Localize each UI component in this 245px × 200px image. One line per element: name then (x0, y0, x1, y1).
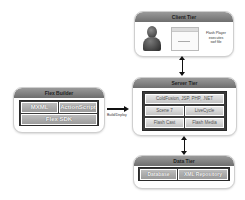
browser-window-icon (171, 27, 199, 51)
flex-cell-flex-sdk: Flex SDK (21, 114, 97, 125)
data-tier: Data Tier Database XML Repository (133, 155, 235, 189)
data-cell-xml-repository: XML Repository (178, 169, 228, 180)
server-tier: Server Tier ColdFusion, JSP, PHP, .NET S… (132, 77, 237, 136)
flex-cell-actionscript: ActionScript (59, 102, 97, 113)
data-components: Database XML Repository (138, 167, 230, 181)
server-tier-title: Server Tier (133, 78, 236, 88)
client-note: Flash Player executes swf file (201, 31, 231, 45)
build-deploy-label: Build/Deploy (107, 113, 127, 117)
data-cell-database: Database (140, 169, 177, 180)
server-cell-flashmedia: Flash Media (185, 118, 224, 128)
flex-builder-title: Flex Builder (14, 88, 104, 98)
flex-builder: Flex Builder MXML ActionScript Flex SDK (13, 87, 105, 133)
server-cell-scene7: Scene 7 (145, 106, 184, 116)
client-tier: Client Tier Flash Player executes swf fi… (134, 11, 234, 57)
user-icon (143, 26, 161, 52)
flex-cell-mxml: MXML (21, 102, 58, 113)
data-tier-title: Data Tier (134, 156, 234, 166)
client-tier-title: Client Tier (135, 12, 233, 22)
server-cell-livecycle: LiveCycle (185, 106, 224, 116)
server-components: ColdFusion, JSP, PHP, .NET Scene 7 LiveC… (142, 91, 227, 131)
flex-components: MXML ActionScript Flex SDK (19, 100, 99, 126)
server-cell-flashcast: Flash Cast (145, 118, 184, 128)
server-cell-coldfusion: ColdFusion, JSP, PHP, .NET (145, 94, 224, 104)
